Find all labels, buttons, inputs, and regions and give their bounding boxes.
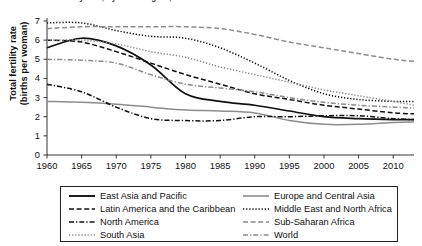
- legend-line-swatch: [69, 217, 95, 227]
- legend-label: South Asia: [100, 230, 144, 240]
- legend-line-swatch: [243, 191, 269, 201]
- legend-line-swatch: [69, 230, 95, 240]
- legend-item[interactable]: Latin America and the Caribbean: [69, 202, 235, 215]
- legend-label: Europe and Central Asia: [274, 191, 375, 201]
- chart-legend: East Asia and PacificLatin America and t…: [60, 186, 398, 242]
- legend-line-swatch: [243, 217, 269, 227]
- series-line-sub-saharan-africa: [47, 27, 414, 62]
- legend-label: East Asia and Pacific: [100, 191, 187, 201]
- legend-item[interactable]: South Asia: [69, 228, 144, 241]
- legend-line-swatch: [69, 204, 95, 214]
- legend-label: Latin America and the Caribbean: [100, 204, 235, 214]
- series-line-world: [47, 59, 414, 108]
- fertility-rate-chart-figure: Total fertility rate, by world region, 1…: [0, 0, 422, 246]
- legend-label: North America: [100, 217, 159, 227]
- legend-line-swatch: [243, 204, 269, 214]
- legend-item[interactable]: East Asia and Pacific: [69, 189, 187, 202]
- series-line-east-asia-and-pacific: [47, 38, 414, 119]
- legend-label: World: [274, 230, 298, 240]
- series-lines: [47, 22, 414, 124]
- legend-label: Sub-Saharan Africa: [274, 217, 355, 227]
- tick-marks: [44, 21, 394, 159]
- legend-item[interactable]: Sub-Saharan Africa: [243, 215, 355, 228]
- series-line-south-asia: [47, 40, 414, 105]
- legend-label: Middle East and North Africa: [274, 204, 392, 214]
- legend-item[interactable]: Europe and Central Asia: [243, 189, 375, 202]
- legend-item[interactable]: World: [243, 228, 298, 241]
- legend-item[interactable]: Middle East and North Africa: [243, 202, 392, 215]
- legend-line-swatch: [69, 191, 95, 201]
- legend-item[interactable]: North America: [69, 215, 159, 228]
- legend-line-swatch: [243, 230, 269, 240]
